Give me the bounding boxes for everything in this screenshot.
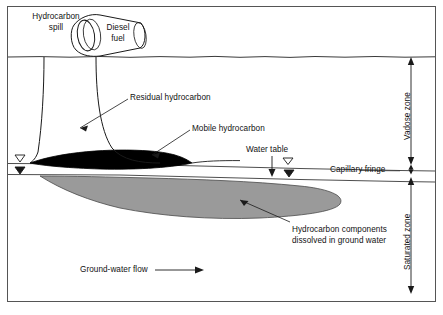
dissolved-components-label-line2: dissolved in ground water	[292, 236, 386, 247]
figure-canvas: Hydrocarbon spill Diesel fuel Residual h…	[0, 0, 443, 315]
capillary-fringe-label: Capillary fringe	[330, 165, 385, 176]
hydrocarbon-spill-title: Hydrocarbon spill	[13, 12, 99, 33]
mobile-hydrocarbon-label: Mobile hydrocarbon	[192, 124, 265, 135]
saturated-zone-label: Saturated zone	[403, 214, 412, 270]
dissolved-components-label-line1: Hydrocarbon components	[292, 225, 387, 236]
hydrocarbon-spill-diagram	[0, 0, 443, 315]
vadose-zone-label: Vadose zone	[403, 92, 412, 140]
water-table-label: Water table	[246, 145, 288, 156]
diesel-fuel-label: Diesel fuel	[96, 23, 140, 44]
ground-water-flow-label: Ground-water flow	[80, 265, 148, 276]
residual-hydrocarbon-label: Residual hydrocarbon	[130, 93, 211, 104]
